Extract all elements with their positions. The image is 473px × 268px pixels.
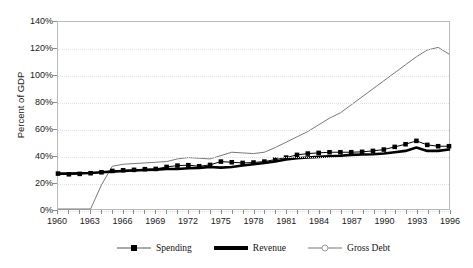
x-tick-mark-1972 xyxy=(188,210,189,214)
x-tick-mark-1990 xyxy=(385,210,386,214)
legend-item-spending: Spending xyxy=(117,243,192,253)
x-tick-label-1996: 1996 xyxy=(440,216,460,226)
plot-area xyxy=(57,21,450,210)
x-tick-label-1969: 1969 xyxy=(145,216,165,226)
series-marker-spending-1986 xyxy=(338,150,343,155)
x-tick-mark-1987 xyxy=(352,210,353,214)
x-tick-label-1981: 1981 xyxy=(276,216,296,226)
x-tick-mark-1983 xyxy=(308,210,309,214)
series-marker-spending-1989 xyxy=(371,149,376,154)
x-tick-mark-1989 xyxy=(374,210,375,214)
x-tick-mark-1986 xyxy=(341,210,342,214)
x-tick-mark-1984 xyxy=(319,210,320,214)
series-marker-spending-1994 xyxy=(425,143,430,148)
legend-swatch-revenue-icon xyxy=(214,243,248,253)
x-tick-mark-1967 xyxy=(133,210,134,214)
series-marker-spending-1976 xyxy=(229,160,234,165)
x-tick-label-1975: 1975 xyxy=(211,216,231,226)
y-tick-label-40: 40% xyxy=(35,152,53,161)
series-marker-spending-1971 xyxy=(175,163,180,168)
gdp-percent-line-chart: Percent of GDP 0%20%40%60%80%100%120%140… xyxy=(0,0,473,268)
x-tick-mark-1962 xyxy=(79,210,80,214)
legend-item-revenue: Revenue xyxy=(214,243,286,253)
x-tick-mark-1980 xyxy=(275,210,276,214)
x-tick-mark-1968 xyxy=(144,210,145,214)
y-tick-label-80: 80% xyxy=(35,98,53,107)
x-tick-mark-1996 xyxy=(450,210,451,214)
series-marker-spending-1983 xyxy=(306,151,311,156)
x-tick-label-1978: 1978 xyxy=(243,216,263,226)
chart-legend: Spending Revenue Gross Debt xyxy=(57,240,450,256)
y-tick-label-60: 60% xyxy=(35,125,53,134)
x-tick-mark-1964 xyxy=(101,210,102,214)
x-tick-mark-1969 xyxy=(155,210,156,214)
series-marker-spending-1984 xyxy=(316,151,321,156)
x-tick-mark-1994 xyxy=(428,210,429,214)
x-tick-mark-1977 xyxy=(243,210,244,214)
gridline-100 xyxy=(58,76,449,77)
y-tick-label-120: 120% xyxy=(30,44,53,53)
x-tick-mark-1961 xyxy=(68,210,69,214)
legend-label-spending: Spending xyxy=(156,243,192,253)
x-tick-mark-1960 xyxy=(57,210,58,214)
legend-label-gross-debt: Gross Debt xyxy=(347,243,390,253)
x-tick-label-1960: 1960 xyxy=(47,216,67,226)
x-tick-mark-1988 xyxy=(363,210,364,214)
y-tick-label-20: 20% xyxy=(35,179,53,188)
x-tick-mark-1973 xyxy=(199,210,200,214)
legend-item-gross-debt: Gross Debt xyxy=(308,243,390,253)
x-tick-mark-1979 xyxy=(264,210,265,214)
x-tick-mark-1993 xyxy=(417,210,418,214)
series-marker-spending-1991 xyxy=(392,145,397,150)
x-tick-label-1966: 1966 xyxy=(112,216,132,226)
series-marker-spending-1993 xyxy=(414,139,419,144)
y-tick-label-140: 140% xyxy=(30,17,53,26)
legend-swatch-spending-icon xyxy=(117,243,151,253)
series-marker-spending-1995 xyxy=(436,144,441,149)
legend-label-revenue: Revenue xyxy=(253,243,286,253)
x-tick-mark-1971 xyxy=(177,210,178,214)
x-tick-label-1972: 1972 xyxy=(178,216,198,226)
y-tick-label-0: 0% xyxy=(40,206,53,215)
x-axis: 1960196319661969197219751978198119841987… xyxy=(57,210,450,236)
series-marker-spending-1996 xyxy=(447,144,452,149)
x-tick-mark-1970 xyxy=(166,210,167,214)
gridline-60 xyxy=(58,130,449,131)
x-tick-label-1990: 1990 xyxy=(374,216,394,226)
series-marker-spending-1975 xyxy=(219,159,224,164)
y-axis: Percent of GDP 0%20%40%60%80%100%120%140… xyxy=(0,0,57,210)
gridline-80 xyxy=(58,103,449,104)
gridline-40 xyxy=(58,157,449,158)
x-tick-mark-1974 xyxy=(210,210,211,214)
x-tick-mark-1963 xyxy=(90,210,91,214)
x-tick-label-1993: 1993 xyxy=(407,216,427,226)
x-tick-mark-1992 xyxy=(406,210,407,214)
x-tick-label-1984: 1984 xyxy=(309,216,329,226)
y-axis-title: Percent of GDP xyxy=(15,45,26,165)
series-layer xyxy=(58,22,449,209)
x-tick-label-1963: 1963 xyxy=(80,216,100,226)
gridline-20 xyxy=(58,184,449,185)
x-tick-mark-1978 xyxy=(254,210,255,214)
series-marker-spending-1985 xyxy=(327,150,332,155)
x-tick-mark-1976 xyxy=(232,210,233,214)
x-tick-mark-1985 xyxy=(330,210,331,214)
series-marker-spending-1990 xyxy=(382,147,387,152)
x-tick-label-1987: 1987 xyxy=(342,216,362,226)
legend-swatch-gross-debt-icon xyxy=(308,243,342,253)
x-tick-mark-1975 xyxy=(221,210,222,214)
x-tick-mark-1991 xyxy=(395,210,396,214)
x-tick-mark-1995 xyxy=(439,210,440,214)
x-tick-mark-1966 xyxy=(123,210,124,214)
series-marker-spending-1972 xyxy=(186,163,191,168)
x-tick-mark-1965 xyxy=(112,210,113,214)
series-marker-spending-1992 xyxy=(403,142,408,147)
x-tick-mark-1981 xyxy=(286,210,287,214)
x-tick-mark-1982 xyxy=(297,210,298,214)
gridline-120 xyxy=(58,49,449,50)
y-tick-label-100: 100% xyxy=(30,71,53,80)
